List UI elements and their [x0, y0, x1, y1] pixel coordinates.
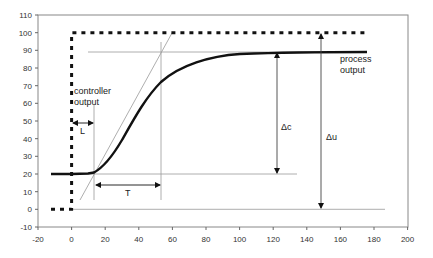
- y-tick-label: 40: [23, 135, 32, 144]
- controller-output-label: controller: [74, 86, 111, 96]
- x-tick-label: 120: [267, 235, 281, 244]
- L-label: L: [80, 126, 85, 136]
- x-tick-label: 140: [300, 235, 314, 244]
- y-tick-label: 20: [23, 170, 32, 179]
- y-tick-label: 110: [19, 11, 32, 20]
- y-tick-label: 70: [23, 82, 32, 91]
- x-tick-label: 0: [69, 235, 74, 244]
- y-tick-label: 90: [23, 46, 32, 55]
- controller-output-label: output: [74, 97, 100, 107]
- y-tick-label: 50: [23, 117, 32, 126]
- x-tick-label: 200: [401, 235, 415, 244]
- x-tick-label: 60: [168, 235, 177, 244]
- y-tick-label: -10: [20, 223, 32, 232]
- process-output-label: process: [340, 54, 372, 64]
- step-response-chart: -20 0 20 40 60 80 100 120 140 160 180 20…: [0, 0, 433, 258]
- y-tick-label: 0: [28, 205, 33, 214]
- x-tick-label: 180: [367, 235, 381, 244]
- x-tick-label: 100: [233, 235, 247, 244]
- y-tick-label: 60: [23, 99, 32, 108]
- process-output-label: output: [340, 65, 366, 75]
- x-tick-label: 20: [101, 235, 110, 244]
- process-output-series: [51, 52, 367, 174]
- y-tick-label: 100: [19, 29, 33, 38]
- x-tick-label: 80: [202, 235, 211, 244]
- x-tick-label: 40: [134, 235, 143, 244]
- plot-frame: [38, 15, 408, 227]
- y-tick-label: 30: [23, 152, 32, 161]
- delta-u-label: Δu: [326, 132, 337, 142]
- T-label: T: [125, 188, 131, 198]
- delta-c-label: Δc: [281, 122, 292, 132]
- y-tick-label: 80: [23, 64, 32, 73]
- x-tick-label: 160: [334, 235, 348, 244]
- x-tick-label: -20: [32, 235, 44, 244]
- y-tick-label: 10: [23, 188, 32, 197]
